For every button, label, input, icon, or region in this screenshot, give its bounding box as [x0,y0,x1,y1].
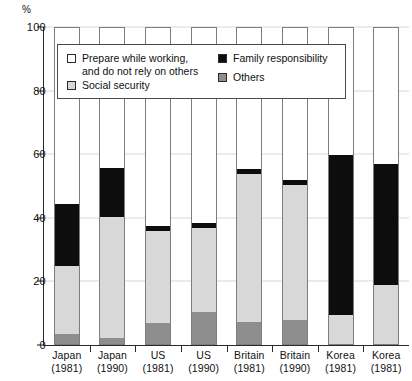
x-axis-label-year: (1990) [181,362,227,375]
y-axis-tick-mark [37,154,44,155]
bar-segment-others [237,322,261,344]
x-axis-label: US(1990) [181,349,227,374]
legend-label: Prepare while working, and do not rely o… [82,52,198,78]
x-axis-label-country: Britain [272,349,318,362]
y-axis-unit-label: % [22,4,31,15]
bar-segment-social-security [55,266,79,334]
y-axis-tick-mark [37,217,44,218]
legend-swatch-medium-gray-icon [218,73,227,82]
x-axis-label-year: (1990) [90,362,136,375]
legend-item-prepare-while-working: Prepare while working, and do not rely o… [67,52,198,78]
bar-segment-social-security [192,228,216,312]
bar-segment-family-responsibility [100,168,124,217]
legend-label: Family responsibility [233,52,328,65]
legend-label: Others [233,71,265,84]
bar-segment-social-security [100,217,124,338]
bar-segment-others [55,334,79,344]
bar-column [373,27,399,345]
legend-swatch-white-icon [67,54,76,63]
y-axis-tick-mark [37,90,44,91]
legend-item-social-security: Social security [67,79,150,92]
y-axis-tick-mark [37,345,44,346]
x-axis-label: Korea(1981) [363,349,409,374]
x-axis-label-year: (1981) [227,362,273,375]
bar-segment-family-responsibility [146,226,170,231]
bar-segment-social-security [329,315,353,344]
x-axis-label: Korea(1981) [318,349,364,374]
legend-label: Social security [82,79,150,92]
stacked-bar-chart: % 100806040200 Japan(1981)Japan(1990)US(… [0,0,412,381]
bar-segment-family-responsibility [55,204,79,266]
x-axis-label: Japan(1981) [44,349,90,374]
bar-segment-family-responsibility [283,180,307,185]
bar-segment-family-responsibility [329,155,353,316]
bar-segment-family-responsibility [237,169,261,174]
x-axis-label-year: (1981) [363,362,409,375]
chart-legend: Prepare while working, and do not rely o… [57,44,346,99]
bar-segment-social-security [283,185,307,320]
x-axis-label-country: Britain [227,349,273,362]
legend-swatch-black-icon [218,54,227,63]
legend-item-family-responsibility: Family responsibility [218,52,328,65]
bar-segment-others [192,312,216,344]
x-axis-label-year: (1981) [318,362,364,375]
x-axis-label-country: US [135,349,181,362]
x-axis-label-country: Korea [318,349,364,362]
x-axis-label-year: (1981) [44,362,90,375]
x-axis-label: Britain(1990) [272,349,318,374]
x-axis-label-country: US [181,349,227,362]
x-axis-label-country: Korea [363,349,409,362]
x-axis-label: US(1981) [135,349,181,374]
bar-segment-others [100,338,124,344]
legend-item-others: Others [218,71,265,84]
legend-swatch-light-gray-icon [67,81,76,90]
x-axis-label-country: Japan [44,349,90,362]
x-axis-label: Britain(1981) [227,349,273,374]
bar-segment-others [283,320,307,344]
bar-segment-others [146,323,170,344]
x-axis-label-year: (1990) [272,362,318,375]
x-axis-label: Japan(1990) [90,349,136,374]
bar-segment-social-security [374,285,398,344]
x-axis-label-country: Japan [90,349,136,362]
bar-segment-family-responsibility [374,164,398,285]
y-axis-tick-mark [37,281,44,282]
bar-segment-social-security [146,231,170,323]
bar-segment-social-security [237,174,261,322]
y-axis-tick-mark [37,27,44,28]
bar-segment-family-responsibility [192,223,216,228]
x-axis-label-year: (1981) [135,362,181,375]
